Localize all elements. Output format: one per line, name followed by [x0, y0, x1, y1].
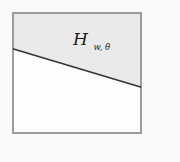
halfspace-diagram: H w, θ — [0, 0, 180, 162]
halfspace-label-subscript: w, θ — [93, 42, 110, 52]
figure-canvas: H w, θ — [0, 0, 180, 162]
halfspace-label-base: H — [72, 29, 89, 49]
